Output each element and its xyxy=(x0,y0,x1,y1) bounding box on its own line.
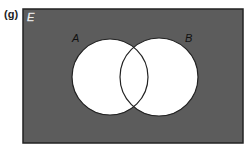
venn-diagram: E A B xyxy=(0,0,248,147)
set-a-label: A xyxy=(71,32,79,44)
universal-set-label: E xyxy=(27,11,35,23)
set-b-label: B xyxy=(185,32,192,44)
